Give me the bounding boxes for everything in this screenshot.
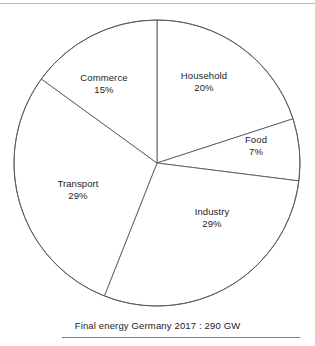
slice-label-name: Commerce	[80, 72, 127, 84]
slice-label-commerce: Commerce15%	[80, 72, 127, 96]
slice-label-value: 15%	[80, 84, 127, 96]
caption-block: Final energy Germany 2017 : 290 GW	[0, 318, 315, 346]
caption-underline	[62, 337, 300, 338]
chart-caption: Final energy Germany 2017 : 290 GW	[0, 320, 315, 331]
slice-label-household: Household20%	[181, 70, 227, 94]
pie-slice-group	[14, 20, 300, 306]
slice-label-value: 29%	[57, 190, 98, 202]
slice-label-name: Transport	[57, 178, 98, 190]
slice-label-value: 7%	[245, 146, 267, 158]
slice-label-transport: Transport29%	[57, 178, 98, 202]
slice-label-name: Household	[181, 70, 227, 82]
slice-label-food: Food7%	[245, 134, 267, 158]
pie-chart-svg	[0, 0, 315, 318]
slice-label-name: Industry	[195, 206, 230, 218]
slice-label-industry: Industry29%	[195, 206, 230, 230]
slice-label-value: 29%	[195, 218, 230, 230]
slice-label-name: Food	[245, 134, 267, 146]
slice-label-value: 20%	[181, 82, 227, 94]
pie-chart-figure: Household20%Food7%Industry29%Transport29…	[0, 0, 315, 346]
